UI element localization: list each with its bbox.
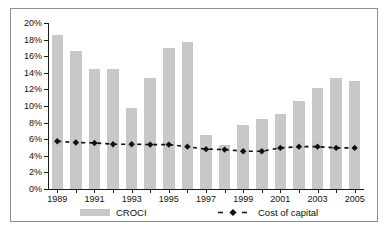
cost-of-capital-marker-2004 xyxy=(333,145,339,151)
x-tick-mark-2002 xyxy=(299,190,300,193)
x-tick-mark-1993 xyxy=(132,190,133,193)
cost-of-capital-marker-1996 xyxy=(184,143,190,149)
cost-of-capital-marker-1997 xyxy=(203,146,209,152)
cost-of-capital-marker-2003 xyxy=(314,143,320,149)
legend-label-croci: CROCI xyxy=(116,208,147,218)
legend-swatch-dashed-diamond-icon xyxy=(218,208,252,217)
cost-of-capital-marker-1994 xyxy=(147,141,153,147)
x-tick-mark-2001 xyxy=(280,190,281,193)
y-tick-label: 4% xyxy=(29,151,42,160)
y-tick-label: 6% xyxy=(29,135,42,144)
cost-of-capital-marker-1992 xyxy=(110,141,116,147)
x-tick-label-2003: 2003 xyxy=(308,195,328,204)
x-tick-mark-1999 xyxy=(243,190,244,193)
cost-of-capital-marker-2001 xyxy=(277,145,283,151)
y-tick-label: 18% xyxy=(24,35,42,44)
cost-of-capital-marker-1998 xyxy=(221,146,227,152)
cost-of-capital-marker-1999 xyxy=(240,148,246,154)
x-tick-label-1993: 1993 xyxy=(122,195,142,204)
legend-item-croci: CROCI xyxy=(80,208,147,218)
y-tick-label: 0% xyxy=(29,185,42,194)
cost-of-capital-marker-1995 xyxy=(166,141,172,147)
chart-figure: 0%2%4%6%8%10%12%14%16%18%20% 19891991199… xyxy=(10,8,378,222)
x-tick-mark-2005 xyxy=(355,190,356,193)
x-tick-label-1997: 1997 xyxy=(196,195,216,204)
chart-legend: CROCI Cost of capital xyxy=(48,208,364,222)
cost-of-capital-marker-1991 xyxy=(91,140,97,146)
cost-of-capital-marker-1990 xyxy=(73,139,79,145)
cost-of-capital-marker-1989 xyxy=(54,138,60,144)
cost-of-capital-marker-2002 xyxy=(296,143,302,149)
y-tick-label: 10% xyxy=(24,102,42,111)
x-tick-label-1989: 1989 xyxy=(47,195,67,204)
x-tick-label-1991: 1991 xyxy=(84,195,104,204)
x-tick-mark-1998 xyxy=(225,190,226,193)
x-tick-mark-1992 xyxy=(113,190,114,193)
y-tick-label: 20% xyxy=(24,19,42,28)
plot-area: 0%2%4%6%8%10%12%14%16%18%20% 19891991199… xyxy=(48,23,364,190)
cost-of-capital-marker-2005 xyxy=(352,145,358,151)
x-tick-label-2005: 2005 xyxy=(345,195,365,204)
legend-swatch-bar-icon xyxy=(80,209,110,216)
x-tick-label-2001: 2001 xyxy=(270,195,290,204)
x-tick-mark-2000 xyxy=(262,190,263,193)
x-tick-mark-1989 xyxy=(57,190,58,193)
legend-item-cost-of-capital: Cost of capital xyxy=(218,208,318,218)
cost-of-capital-marker-2000 xyxy=(259,148,265,154)
line-series-cost-of-capital xyxy=(48,23,364,190)
y-tick-label: 8% xyxy=(29,118,42,127)
legend-label-cost-of-capital: Cost of capital xyxy=(258,208,318,218)
x-tick-label-1999: 1999 xyxy=(233,195,253,204)
x-tick-label-1995: 1995 xyxy=(159,195,179,204)
x-tick-mark-1997 xyxy=(206,190,207,193)
x-tick-mark-1994 xyxy=(150,190,151,193)
y-tick-label: 2% xyxy=(29,168,42,177)
x-tick-mark-1996 xyxy=(187,190,188,193)
x-tick-mark-1995 xyxy=(169,190,170,193)
y-tick-label: 12% xyxy=(24,85,42,94)
x-tick-mark-2004 xyxy=(336,190,337,193)
cost-of-capital-marker-1993 xyxy=(128,141,134,147)
x-tick-mark-1990 xyxy=(76,190,77,193)
y-tick-label: 16% xyxy=(24,52,42,61)
x-tick-mark-1991 xyxy=(94,190,95,193)
y-tick-label: 14% xyxy=(24,68,42,77)
x-tick-mark-2003 xyxy=(318,190,319,193)
